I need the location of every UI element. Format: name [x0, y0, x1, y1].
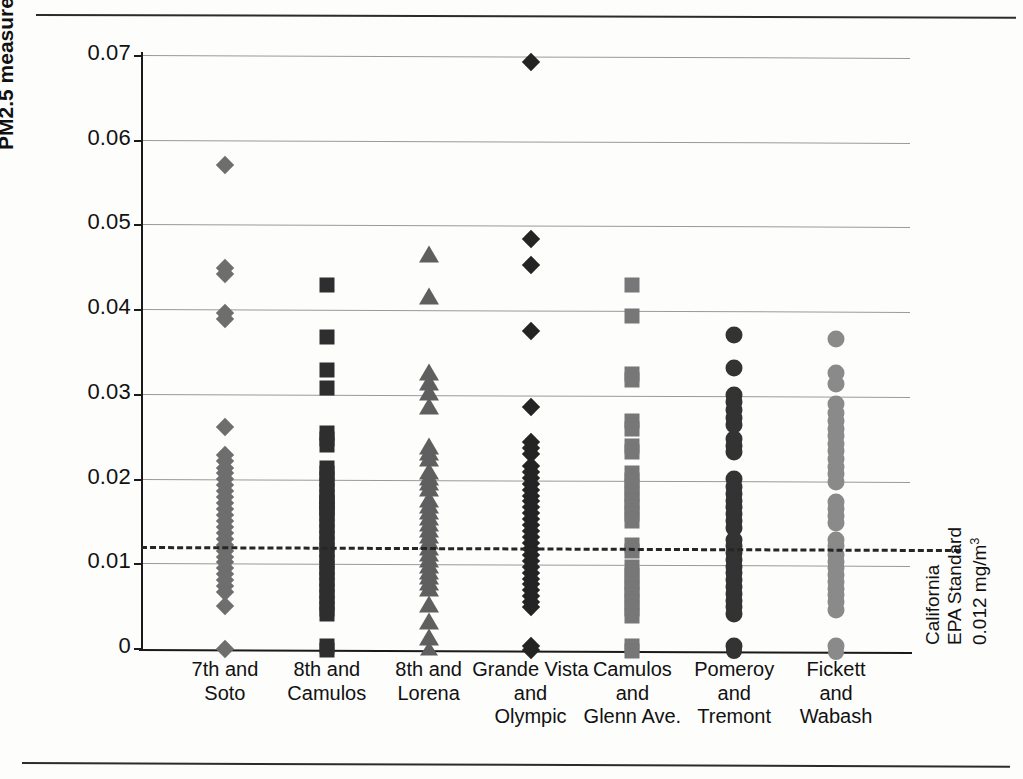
data-point-marker [828, 375, 845, 392]
data-point-marker [726, 444, 743, 461]
x-axis-category-tick-marker [625, 643, 640, 658]
page-rule-top [36, 14, 1016, 19]
x-axis-category-tick-marker [319, 642, 334, 657]
data-point-marker [521, 398, 539, 416]
data-point-marker [726, 326, 743, 343]
data-point-marker [419, 398, 439, 415]
data-point-marker [625, 308, 640, 323]
data-point-marker [419, 245, 439, 262]
data-point-marker [319, 437, 334, 452]
data-point-marker [319, 330, 334, 345]
y-axis-tick-label: 0.02 [87, 464, 131, 490]
data-point-marker [319, 363, 334, 378]
y-axis-title-text: PM2.5 measurement, mg/m [0, 0, 17, 150]
epa-annotation-line-2: EPA Standard [944, 527, 966, 645]
data-point-marker [625, 513, 640, 528]
epa-annotation-value: 0.012 mg/m [969, 545, 990, 645]
epa-standard-annotation: California EPA Standard 0.012 mg/m3 [922, 527, 992, 645]
y-axis-tick-label: 0.06 [87, 125, 131, 151]
data-point-marker [828, 330, 845, 347]
x-axis-category-tick-marker [420, 642, 438, 656]
y-axis-title: PM2.5 measurement, mg/m3 [0, 0, 18, 150]
data-point-marker [828, 601, 845, 618]
y-axis-tick-label: 0.01 [87, 548, 131, 574]
data-point-marker [319, 380, 334, 395]
y-axis-tick-label: 0 [119, 633, 131, 659]
data-point-marker [625, 445, 640, 460]
x-axis-category-tick-marker [726, 643, 742, 659]
page-rule-bottom [22, 762, 1010, 768]
data-point-marker [319, 607, 334, 622]
data-point-marker [216, 597, 234, 615]
data-point-marker [625, 373, 640, 388]
y-axis-tick-label: 0.04 [87, 294, 131, 320]
x-axis-category-label: Fickett and Wabash [761, 658, 911, 729]
data-point-marker [521, 53, 539, 71]
data-point-marker [521, 230, 539, 248]
data-point-marker [216, 418, 234, 436]
data-point-marker [828, 514, 845, 531]
data-point-marker [828, 473, 845, 490]
data-point-marker [419, 595, 439, 612]
data-point-marker [216, 156, 234, 174]
data-point-marker [625, 608, 640, 623]
y-axis-tick-label: 0.07 [87, 40, 131, 66]
plot-area [141, 55, 910, 648]
figure-root: PM2.5 measurement, mg/m3 0.070.060.050.0… [0, 0, 1023, 779]
data-point-marker [319, 278, 334, 293]
y-axis-tick-label: 0.03 [87, 379, 131, 405]
epa-annotation-line-1: California [922, 527, 944, 645]
data-point-marker [625, 544, 640, 559]
data-point-marker [625, 422, 640, 437]
epa-annotation-superscript: 3 [967, 537, 982, 544]
data-point-marker [419, 288, 439, 305]
data-point-marker [419, 612, 439, 629]
data-point-marker [625, 278, 640, 293]
y-axis-tick-label: 0.05 [87, 209, 131, 235]
x-axis-category-tick-marker [828, 644, 844, 660]
epa-annotation-line-3: 0.012 mg/m3 [967, 527, 992, 645]
data-point-marker [521, 322, 539, 340]
data-point-marker [726, 606, 743, 623]
data-point-marker [521, 256, 539, 274]
data-point-marker [726, 360, 743, 377]
